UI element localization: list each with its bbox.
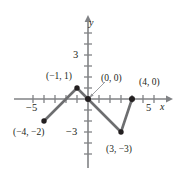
x-axis-arrowhead	[166, 96, 173, 103]
x-tick-label-5: 5	[146, 103, 151, 114]
x-axis-label: x	[160, 102, 164, 112]
marker-neg4-neg2	[41, 118, 46, 123]
point-label-0-0: (0, 0)	[101, 74, 122, 84]
y-tick-label-neg3: −3	[66, 127, 77, 138]
chart-figure: −5 5 3 −3 x y (−1, 1) (0, 0) (4, 0) (−4,…	[0, 0, 177, 171]
marker-4-0	[129, 96, 135, 102]
point-label-3-neg3: (3, −3)	[106, 145, 132, 155]
marker-0-0	[85, 96, 91, 102]
y-axis-label: y	[89, 18, 93, 28]
marker-3-neg3	[118, 129, 123, 134]
point-label-4-0: (4, 0)	[139, 78, 160, 88]
point-label-neg4-neg2: (−4, −2)	[13, 128, 44, 138]
marker-neg1-1	[74, 85, 79, 90]
x-tick-label-neg5: −5	[26, 103, 37, 114]
point-label-neg1-1: (−1, 1)	[46, 72, 72, 82]
y-tick-label-3: 3	[73, 50, 78, 61]
origin-leader-line	[91, 82, 106, 97]
